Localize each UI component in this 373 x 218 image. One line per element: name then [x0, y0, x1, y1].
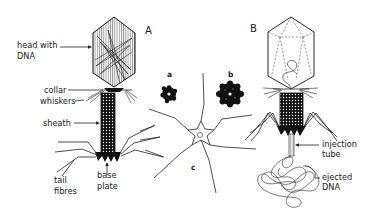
label-ejected: ejected — [322, 172, 352, 182]
label-injection: injection — [322, 139, 357, 149]
bacteriophage-diagram: A — [0, 0, 373, 218]
contracted-sheath — [280, 93, 303, 127]
label-plate: plate — [97, 181, 118, 191]
label-tube: tube — [322, 149, 341, 159]
rosette-b — [216, 81, 244, 108]
label-whiskers: whiskers — [40, 96, 76, 106]
empty-head — [268, 17, 314, 89]
label-sheath: sheath — [43, 118, 71, 128]
label-fibres: fibres — [54, 186, 77, 196]
label-collar: collar — [44, 85, 67, 95]
panel-label-B: B — [250, 23, 257, 34]
tail-leader-line — [62, 160, 74, 176]
rosette-a — [160, 85, 177, 103]
ejected-dna — [258, 156, 319, 207]
fibre-fragment — [140, 126, 154, 131]
whiskers-leader-line — [75, 100, 84, 101]
injection-tube — [289, 134, 294, 156]
phage-b-contracted: B — [245, 17, 357, 207]
label-dna: DNA — [17, 51, 35, 61]
label-ejected-dna: DNA — [322, 182, 340, 192]
panel-label-b: b — [228, 70, 234, 79]
panel-label-c: c — [191, 163, 195, 172]
label-tail: tail — [54, 175, 67, 185]
head-with-dna — [93, 17, 135, 87]
panel-label-a: a — [167, 70, 172, 79]
phage-a-intact: A — [17, 17, 163, 196]
panel-label-A: A — [145, 25, 152, 36]
sheath — [101, 93, 115, 155]
base-plate — [95, 152, 121, 162]
label-base: base — [97, 170, 117, 180]
baseplate-views: a b c — [140, 70, 256, 193]
label-head-with: head with — [17, 40, 57, 50]
